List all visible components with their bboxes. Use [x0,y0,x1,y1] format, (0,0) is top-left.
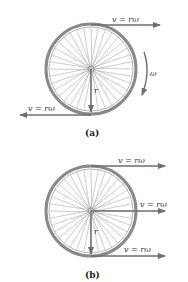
spoke [52,197,88,211]
spoke [94,211,130,225]
spoke [64,213,88,243]
spoke [55,70,88,90]
spoke [91,28,92,67]
spoke [70,72,90,105]
middle-velocity-label-b: v = rω [140,200,167,209]
spoke [94,190,127,210]
bottom-velocity-label-a: v = rω [28,104,55,113]
spoke [92,175,112,208]
spoke [59,213,89,237]
bottom-velocity-label-b: v = rω [124,245,151,254]
spoke [94,48,127,68]
spoke [52,71,89,84]
spoke [93,172,106,209]
spoke [93,42,123,66]
spoke [91,170,98,208]
spoke [94,62,132,69]
spoke [93,179,117,209]
spoke [84,214,91,252]
spoke [77,213,90,250]
spoke [52,213,89,226]
spoke [59,71,89,95]
spoke [93,30,106,67]
spoke [77,30,91,66]
spoke [55,212,88,232]
figure-b: r v = rω v = rω v = rω (b) [46,156,167,280]
spoke [77,71,90,108]
spoke [50,211,89,212]
spoke [93,184,123,208]
figure-a: r v = rω v = rω ω (a) [20,15,160,138]
spoke [64,71,88,101]
spoke [50,69,89,70]
spoke [94,69,130,83]
top-velocity-label-a: v = rω [112,15,139,24]
spoke [94,204,132,211]
caption-a: (a) [85,128,99,138]
top-velocity-label-b: v = rω [118,156,145,165]
spoke [50,211,88,218]
spoke [93,37,117,67]
spoke [70,214,90,247]
caption-b: (b) [85,270,100,280]
spoke [93,55,130,68]
spoke [94,68,133,69]
diagram-canvas: r v = rω v = rω ω (a) r v = rω v = rω v … [0,0,188,282]
angular-velocity-label: ω [150,69,157,78]
spoke [52,55,88,69]
spoke [84,72,91,110]
spoke [93,197,130,210]
spoke [77,172,91,208]
spoke [92,33,112,66]
angular-velocity-arrow [142,52,147,95]
spoke [91,28,98,66]
spoke [91,170,92,209]
spoke [50,69,88,76]
